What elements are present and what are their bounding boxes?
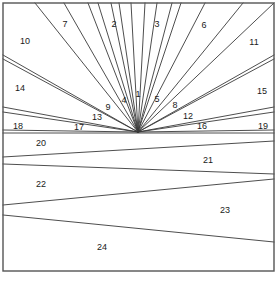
region-label-3: 3	[154, 19, 159, 29]
region-label-16: 16	[197, 121, 207, 131]
region-label-11: 11	[249, 37, 258, 47]
region-label-17: 17	[74, 122, 84, 132]
region-label-18: 18	[13, 121, 23, 131]
fan-ray-r23	[3, 130, 138, 132]
region-label-13: 13	[92, 112, 102, 122]
strip-divider-d23-24	[3, 215, 274, 242]
region-label-9: 9	[105, 102, 110, 112]
region-label-21: 21	[203, 155, 213, 165]
fan-ray-r12	[35, 3, 138, 132]
region-label-1: 1	[135, 89, 140, 99]
fan-ray-r3	[119, 3, 138, 132]
fan-ray-r16	[3, 59, 138, 132]
outer-frame	[3, 3, 274, 271]
fan-ray-r20	[3, 112, 138, 132]
region-label-10: 10	[20, 36, 30, 46]
region-label-4: 4	[121, 95, 126, 105]
region-label-20: 20	[36, 138, 46, 148]
region-label-6: 6	[201, 20, 206, 30]
strip-dividers-group	[3, 141, 274, 242]
region-label-7: 7	[62, 19, 67, 29]
region-label-14: 14	[15, 83, 25, 93]
fan-ray-r2	[138, 3, 145, 132]
region-label-8: 8	[172, 100, 177, 110]
region-label-23: 23	[220, 205, 230, 215]
fan-rays-group	[3, 3, 274, 133]
strip-divider-d21-22	[3, 164, 274, 174]
region-label-5: 5	[154, 94, 159, 104]
region-label-12: 12	[183, 111, 193, 121]
polygon-subdivision-svg: 123456789101112131415161718192021222324	[0, 0, 279, 281]
region-label-24: 24	[97, 242, 107, 252]
region-labels-group: 123456789101112131415161718192021222324	[13, 19, 268, 252]
diagram-canvas: 123456789101112131415161718192021222324	[0, 0, 279, 281]
outer-frame-group	[3, 3, 274, 271]
region-label-15: 15	[257, 86, 267, 96]
fan-ray-r19	[3, 107, 138, 132]
region-label-22: 22	[36, 179, 46, 189]
region-label-2: 2	[111, 19, 116, 29]
region-label-19: 19	[258, 121, 268, 131]
